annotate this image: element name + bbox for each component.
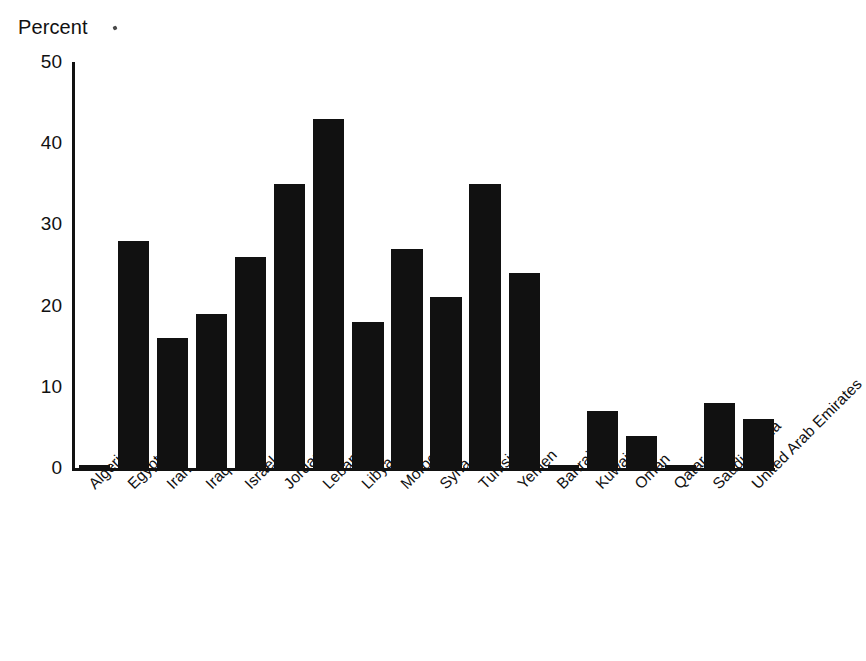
y-axis-tick-label: 0 bbox=[51, 457, 62, 479]
bar bbox=[313, 119, 344, 468]
scan-speck-artifact bbox=[112, 25, 118, 31]
bar bbox=[118, 241, 149, 468]
y-axis-tick-labels: 01020304050 bbox=[0, 62, 62, 471]
bar bbox=[274, 184, 305, 468]
y-axis-tick-label: 10 bbox=[41, 376, 62, 398]
bar bbox=[235, 257, 266, 468]
y-axis-tick-label: 20 bbox=[41, 295, 62, 317]
plot-area bbox=[72, 62, 775, 471]
y-axis-tick-label: 50 bbox=[41, 51, 62, 73]
x-axis-category-labels: AlgeriaEgyptIranIraqIsraelJordanLebanonL… bbox=[72, 474, 793, 661]
bar bbox=[391, 249, 422, 468]
y-axis-tick-label: 30 bbox=[41, 213, 62, 235]
bar bbox=[157, 338, 188, 468]
bars-layer bbox=[72, 62, 775, 468]
bar bbox=[469, 184, 500, 468]
bar bbox=[196, 314, 227, 468]
y-axis-tick-label: 40 bbox=[41, 132, 62, 154]
y-axis-title: Percent bbox=[18, 16, 88, 39]
bar bbox=[509, 273, 540, 468]
